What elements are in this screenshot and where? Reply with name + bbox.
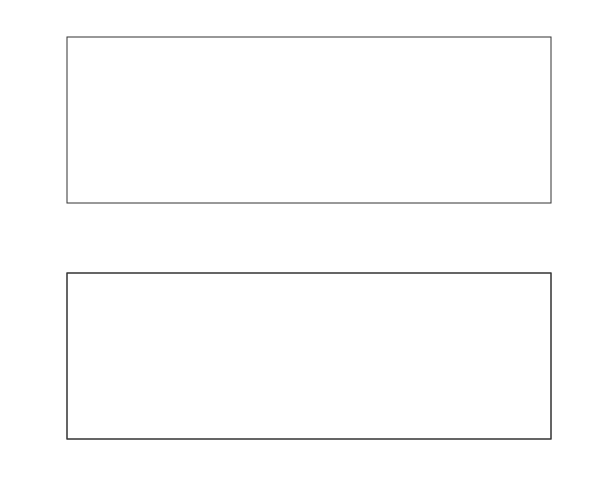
top-plot-area — [67, 37, 551, 203]
top-plot — [67, 37, 551, 203]
figure — [0, 0, 589, 503]
bottom-plot — [67, 273, 551, 439]
bottom-plot-area — [67, 273, 551, 439]
